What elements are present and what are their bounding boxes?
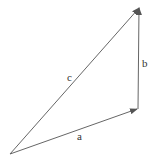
- vector-a: [10, 109, 137, 154]
- vector-diagram: a b c: [0, 0, 157, 165]
- label-a: a: [77, 131, 82, 142]
- label-b: b: [142, 58, 148, 69]
- vector-c: [10, 8, 139, 154]
- label-c: c: [67, 72, 72, 83]
- vector-b: [138, 8, 139, 109]
